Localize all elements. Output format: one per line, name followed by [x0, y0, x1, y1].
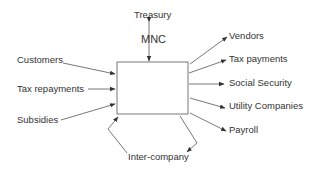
payroll-label: Payroll [229, 125, 258, 135]
subsidies-label: Subsidies [17, 115, 58, 125]
tax-payments-label: Tax payments [229, 54, 288, 64]
utility-companies-arrow [190, 98, 225, 108]
vendors-arrow [190, 37, 227, 64]
customers-label: Customers [17, 55, 63, 65]
mnc-box [117, 62, 188, 114]
mnc-label: MNC [141, 34, 166, 45]
social-security-label: Social Security [229, 78, 292, 88]
payroll-arrow [190, 113, 226, 131]
vendors-label: Vendors [229, 31, 264, 41]
inter-company-label: Inter-company [128, 152, 189, 162]
inter-company-right-arrow [180, 116, 197, 152]
treasury-label: Treasury [134, 10, 171, 20]
subsidies-arrow [61, 104, 115, 120]
tax-repayments-label: Tax repayments [17, 84, 84, 94]
inter-company-left-arrow [108, 117, 127, 153]
utility-companies-label: Utility Companies [229, 101, 303, 111]
tax-payments-arrow [189, 60, 226, 73]
customers-arrow [63, 63, 115, 74]
